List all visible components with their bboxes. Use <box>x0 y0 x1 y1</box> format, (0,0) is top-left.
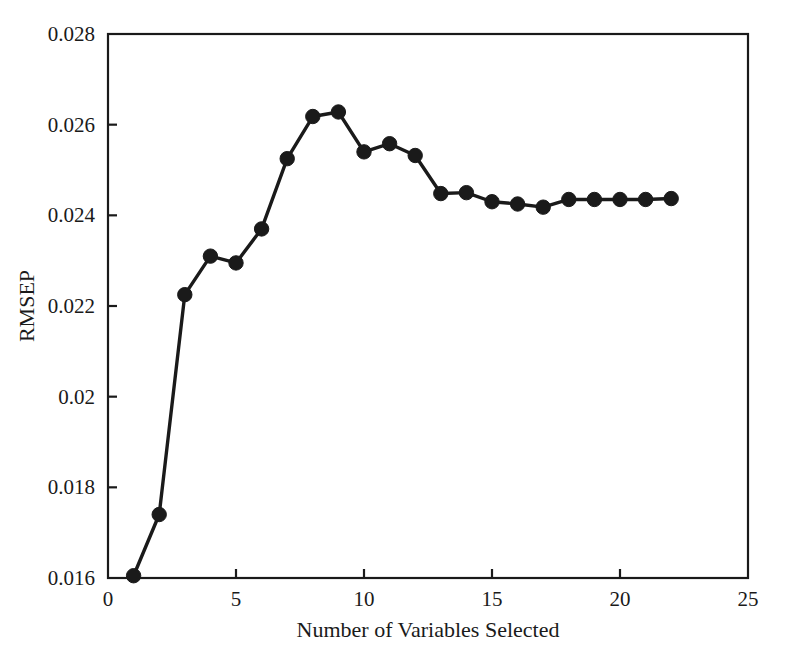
data-point-marker <box>587 192 601 206</box>
data-point-marker <box>382 137 396 151</box>
data-point-marker <box>485 195 499 209</box>
chart-figure: 0510152025 0.0160.0180.020.0220.0240.026… <box>0 0 786 658</box>
data-point-marker <box>126 569 140 583</box>
data-point-marker <box>331 105 345 119</box>
y-axis-title: RMSEP <box>14 270 39 342</box>
x-tick-label: 10 <box>354 587 375 611</box>
data-point-marker <box>229 256 243 270</box>
x-tick-label: 25 <box>738 587 759 611</box>
y-tick-label: 0.018 <box>48 475 95 499</box>
data-point-marker <box>152 507 166 521</box>
caption-ghost-text <box>0 644 786 658</box>
x-axis-title: Number of Variables Selected <box>297 617 560 642</box>
data-point-marker <box>178 287 192 301</box>
data-point-marker <box>613 192 627 206</box>
data-point-marker <box>638 192 652 206</box>
y-tick-label: 0.02 <box>58 385 95 409</box>
data-point-marker <box>510 197 524 211</box>
y-tick-label: 0.022 <box>48 294 95 318</box>
data-point-marker <box>254 222 268 236</box>
x-tick-label: 5 <box>231 587 242 611</box>
chart-background <box>0 0 786 658</box>
data-point-marker <box>459 185 473 199</box>
x-tick-label: 0 <box>103 587 114 611</box>
y-tick-label: 0.024 <box>48 203 96 227</box>
data-point-marker <box>434 186 448 200</box>
data-point-marker <box>203 249 217 263</box>
x-tick-label: 20 <box>610 587 631 611</box>
x-tick-label: 15 <box>482 587 503 611</box>
rmsep-line-chart: 0510152025 0.0160.0180.020.0220.0240.026… <box>0 0 786 658</box>
y-tick-label: 0.028 <box>48 22 95 46</box>
data-point-marker <box>664 191 678 205</box>
data-point-marker <box>306 109 320 123</box>
data-point-marker <box>280 151 294 165</box>
y-tick-label: 0.026 <box>48 113 95 137</box>
data-point-marker <box>357 145 371 159</box>
data-point-marker <box>536 200 550 214</box>
data-point-marker <box>408 148 422 162</box>
data-point-marker <box>562 192 576 206</box>
y-tick-label: 0.016 <box>48 566 95 590</box>
